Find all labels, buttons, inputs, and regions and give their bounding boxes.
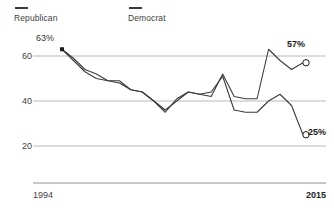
series-line-democrat (62, 49, 303, 135)
y-axis-tick-20: 20 (8, 141, 32, 151)
marker-circle-republican (303, 60, 309, 66)
marker-square-start (60, 47, 64, 51)
callout-democrat-end: 25% (308, 127, 326, 137)
callout-republican-end: 57% (287, 39, 305, 49)
callout-start-value: 63% (36, 33, 54, 43)
y-axis-tick-40: 40 (8, 96, 32, 106)
x-axis-label-start: 1994 (33, 190, 53, 200)
x-axis-label-end: 2015 (306, 190, 326, 200)
y-axis-tick-60: 60 (8, 51, 32, 61)
chart-container: Republican Democrat 60 40 20 1994 2015 6… (0, 0, 334, 217)
